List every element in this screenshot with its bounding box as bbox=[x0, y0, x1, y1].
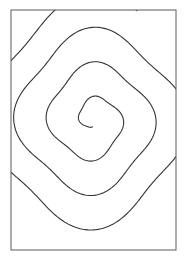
spiral-artboard bbox=[0, 0, 187, 261]
frame-background bbox=[11, 10, 176, 250]
spiral-illustration bbox=[0, 0, 187, 261]
